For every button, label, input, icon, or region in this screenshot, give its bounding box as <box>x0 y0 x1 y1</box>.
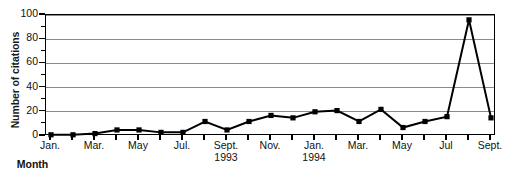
x-tick-label-6: Jul. <box>158 139 206 151</box>
x-tick-label-16: May <box>378 139 426 151</box>
x-tick-label-20: Sept. <box>466 139 514 151</box>
data-point-marker <box>378 107 383 112</box>
data-point-marker <box>400 125 405 130</box>
x-tick-month: Jan. <box>304 139 324 151</box>
data-point-marker <box>334 108 339 113</box>
y-tick-label-100: 100 <box>4 8 38 18</box>
data-point-marker <box>290 115 295 120</box>
data-point-marker <box>312 109 317 114</box>
x-tick-month: Mar. <box>84 139 104 151</box>
x-tick-month: May <box>392 139 412 151</box>
x-tick-label-0: Jan. <box>26 139 74 151</box>
x-tick-month: Nov. <box>260 139 281 151</box>
data-point-marker <box>224 127 229 132</box>
data-series-line <box>46 15 496 136</box>
data-point-marker <box>356 119 361 124</box>
x-tick-month: May <box>128 139 148 151</box>
data-point-marker <box>136 127 141 132</box>
x-tick-label-4: May <box>114 139 162 151</box>
y-tick-label-60: 60 <box>4 56 38 66</box>
x-tick-label-2: Mar. <box>70 139 118 151</box>
x-tick-month: Mar. <box>348 139 368 151</box>
citations-line-chart: Number of citations 020406080100 Jan.Mar… <box>0 0 515 178</box>
x-tick-label-18: Jul <box>422 139 470 151</box>
data-point-marker <box>202 119 207 124</box>
x-tick-month: Jan. <box>40 139 60 151</box>
y-axis-ticks: 020406080100 <box>0 0 38 178</box>
data-point-marker <box>444 114 449 119</box>
y-tick-label-80: 80 <box>4 32 38 42</box>
data-point-marker <box>422 119 427 124</box>
data-point-marker <box>246 119 251 124</box>
x-tick-month: Jul <box>439 139 452 151</box>
data-point-marker <box>268 113 273 118</box>
x-axis-title-text: Month <box>17 158 49 170</box>
x-axis-title: Month <box>0 158 515 170</box>
data-point-marker <box>114 127 119 132</box>
y-tick-label-20: 20 <box>4 105 38 115</box>
data-point-marker <box>488 115 493 120</box>
x-tick-month: Jul. <box>174 139 190 151</box>
data-point-marker <box>466 17 471 22</box>
x-tick-label-10: Nov. <box>246 139 294 151</box>
x-tick-month: Sept. <box>214 139 239 151</box>
y-tick-label-0: 0 <box>4 129 38 139</box>
y-tick-label-40: 40 <box>4 81 38 91</box>
x-tick-label-14: Mar. <box>334 139 382 151</box>
x-tick-month: Sept. <box>478 139 503 151</box>
plot-area <box>45 14 495 135</box>
